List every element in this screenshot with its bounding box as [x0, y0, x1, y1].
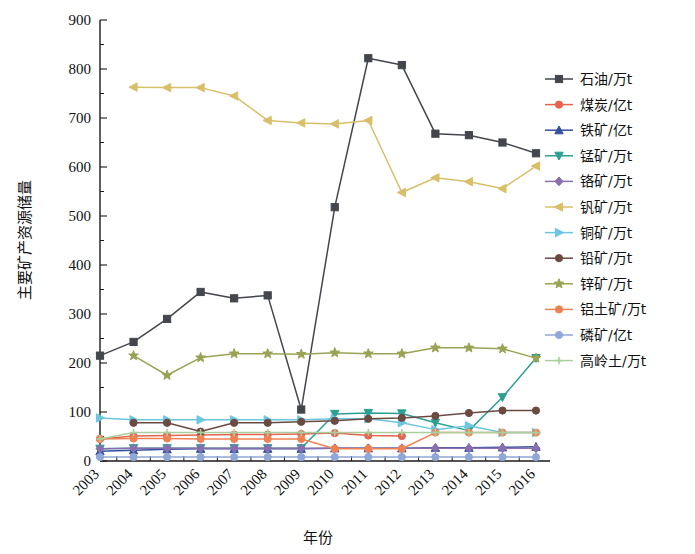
data-point-marker [163, 419, 170, 426]
data-point-marker [398, 61, 405, 68]
data-point-marker [555, 177, 563, 186]
legend-item-5[interactable]: 钒矿/万t [545, 199, 633, 215]
data-point-marker [264, 419, 271, 426]
data-point-marker [532, 453, 539, 460]
series-line [100, 58, 536, 409]
data-point-marker [499, 407, 506, 414]
data-point-marker [162, 370, 172, 379]
legend-item-6[interactable]: 铜矿/万t [545, 225, 633, 241]
x-axis-title: 年份 [303, 529, 333, 547]
data-point-marker [363, 349, 373, 358]
data-point-marker [129, 83, 137, 91]
x-tick-label: 2004 [103, 465, 136, 498]
data-point-marker [464, 178, 472, 186]
data-point-marker [197, 453, 204, 460]
legend-label: 铬矿/万t [580, 173, 633, 189]
data-point-marker [296, 349, 306, 358]
data-point-marker [230, 92, 238, 100]
data-point-marker [130, 419, 137, 426]
data-point-marker [532, 407, 539, 414]
legend-item-9[interactable]: 铝土矿/万t [545, 301, 647, 317]
data-point-marker [554, 203, 562, 211]
y-tick-label: 400 [69, 257, 92, 273]
legend-item-2[interactable]: 铁矿/亿t [545, 122, 633, 138]
data-point-marker [197, 416, 205, 424]
data-point-marker [196, 83, 204, 91]
data-point-marker [465, 132, 472, 139]
data-point-marker [555, 101, 562, 108]
legend-label: 锰矿/万t [580, 148, 633, 164]
y-tick-label: 800 [69, 61, 92, 77]
data-point-marker [197, 288, 204, 295]
data-point-marker [398, 445, 405, 452]
x-tick-label: 2008 [237, 466, 270, 499]
series-0 [96, 55, 539, 414]
data-point-marker [365, 415, 372, 422]
data-point-marker [365, 445, 372, 452]
x-tick-label: 2005 [137, 466, 170, 499]
data-point-marker [231, 453, 238, 460]
y-tick-label: 500 [69, 208, 92, 224]
x-tick-label: 2016 [506, 465, 539, 498]
data-point-marker [263, 349, 273, 358]
legend-label: 铜矿/万t [580, 225, 633, 241]
data-point-marker [298, 453, 305, 460]
legend-item-1[interactable]: 煤炭/亿t [545, 97, 633, 113]
legend-item-4[interactable]: 铬矿/万t [545, 173, 633, 189]
legend-label: 高岭土/万t [580, 353, 647, 369]
data-point-marker [555, 306, 562, 313]
x-tick-label: 2014 [439, 465, 472, 498]
y-tick-label: 700 [69, 110, 92, 126]
series-5 [129, 83, 540, 197]
data-point-marker [162, 83, 170, 91]
y-axis-title: 主要矿产资源储量 [16, 180, 34, 300]
data-point-marker [464, 343, 474, 352]
data-point-marker [465, 409, 472, 416]
legend-item-11[interactable]: 高岭土/万t [545, 353, 647, 369]
legend-item-3[interactable]: 锰矿/万t [545, 148, 633, 164]
data-point-marker [499, 139, 506, 146]
legend-label: 钒矿/万t [580, 199, 633, 215]
data-point-marker [130, 453, 137, 460]
data-point-marker [465, 453, 472, 460]
data-point-marker [163, 453, 170, 460]
data-point-marker [532, 444, 540, 453]
data-point-marker [397, 188, 405, 196]
data-point-marker [331, 204, 338, 211]
data-point-marker [298, 418, 305, 425]
legend-item-0[interactable]: 石油/万t [545, 71, 633, 87]
data-point-marker [532, 150, 539, 157]
data-point-marker [130, 338, 137, 345]
legend-item-7[interactable]: 铅矿/万t [545, 250, 633, 266]
data-point-marker [555, 331, 562, 338]
plot-area [96, 55, 541, 461]
legend: 石油/万t煤炭/亿t铁矿/亿t锰矿/万t铬矿/万t钒矿/万t铜矿/万t铅矿/万t… [545, 71, 647, 369]
data-point-marker [264, 453, 271, 460]
x-tick-label: 2003 [70, 466, 103, 499]
legend-label: 铝土矿/万t [580, 301, 647, 317]
y-tick-label: 900 [69, 12, 92, 28]
x-tick-label: 2011 [338, 466, 370, 498]
legend-label: 铁矿/亿t [580, 122, 633, 138]
series-8 [129, 343, 541, 380]
data-point-marker [331, 445, 338, 452]
data-point-marker [264, 292, 271, 299]
data-point-marker [231, 419, 238, 426]
legend-item-10[interactable]: 磷矿/亿t [545, 327, 633, 343]
x-tick-label: 2010 [304, 466, 337, 499]
legend-label: 煤炭/亿t [580, 97, 633, 113]
data-point-marker [398, 453, 405, 460]
data-point-marker [330, 120, 338, 128]
chart-figure: 0100200300400500600700800900 20032004200… [0, 0, 695, 554]
x-tick-label: 2015 [472, 466, 505, 499]
data-point-marker [231, 295, 238, 302]
data-point-marker [298, 435, 305, 442]
data-point-marker [398, 414, 405, 421]
data-point-marker [330, 348, 340, 357]
line-chart-canvas: 0100200300400500600700800900 20032004200… [0, 0, 695, 554]
legend-item-8[interactable]: 锌矿/万t [545, 276, 633, 292]
data-point-marker [365, 55, 372, 62]
x-tick-label: 2006 [170, 465, 203, 498]
data-point-marker [264, 435, 271, 442]
legend-label: 磷矿/亿t [580, 327, 633, 343]
